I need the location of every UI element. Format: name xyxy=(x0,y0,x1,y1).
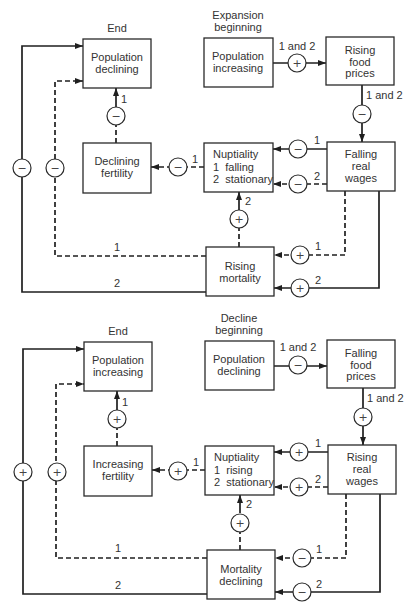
box-text: mortality xyxy=(219,272,261,284)
box-text: fertility xyxy=(101,167,133,179)
box-mortality: Rising mortality xyxy=(206,247,274,296)
sign-node-mortality-to-population-2: + xyxy=(14,463,32,481)
box-text: Population xyxy=(92,354,144,366)
sign-node-mortality-to-population-1: + xyxy=(48,463,66,481)
sign-node-nuptiality-to-fertility: − xyxy=(169,158,187,176)
sign-node-wages-to-mortality-2: − xyxy=(293,583,311,601)
path-label: 1 xyxy=(193,456,199,468)
box-text: real xyxy=(353,463,371,475)
box-real-wages: Rising real wages xyxy=(328,445,396,494)
sign-node-population-to-food: − xyxy=(289,356,307,374)
sign-node-wages-to-mortality-1: + xyxy=(291,246,309,264)
box-fertility: Increasing fertility xyxy=(84,446,152,496)
phase-label-line2: beginning xyxy=(214,21,262,33)
path-label: 2 xyxy=(314,170,320,182)
sign-icon: − xyxy=(173,161,182,174)
sign-icon: + xyxy=(294,446,303,459)
box-text: Rising xyxy=(345,44,376,56)
box-text: Population xyxy=(212,50,264,62)
sign-icon: + xyxy=(295,282,304,295)
sign-node-nuptiality-to-fertility: + xyxy=(169,462,187,480)
box-text: Mortality xyxy=(220,563,262,575)
path-label: 2 xyxy=(114,277,120,289)
box-nuptiality: Nuptiality 1 rising 2 stationary xyxy=(205,446,274,495)
connector-wages-to-mortality-2 xyxy=(274,191,379,288)
sign-node-wages-to-mortality-2: + xyxy=(291,279,309,297)
box-text: declining xyxy=(219,575,262,587)
box-mortality: Mortality declining xyxy=(207,550,275,599)
sign-icon: + xyxy=(112,413,121,426)
sign-node-wages-to-nuptiality-2: − xyxy=(289,175,307,193)
path-label: 1 xyxy=(316,543,322,555)
box-food-prices: Rising food prices xyxy=(326,37,394,85)
phase-label-line1: Decline xyxy=(221,312,258,324)
sign-icon: + xyxy=(358,411,367,424)
sign-icon: − xyxy=(357,108,366,121)
sign-icon: − xyxy=(293,178,302,191)
box-text: 2 stationary xyxy=(214,476,274,488)
path-label: 2 xyxy=(246,498,252,510)
sign-icon: − xyxy=(293,143,302,156)
box-population-end: Population declining xyxy=(83,39,151,88)
sign-node-food-to-wages: − xyxy=(353,105,371,123)
sign-node-population-to-food: + xyxy=(288,54,306,72)
box-text: Falling xyxy=(345,347,377,359)
sign-icon: + xyxy=(292,57,301,70)
box-population-end: Population increasing xyxy=(84,342,152,391)
sign-node-mortality-to-nuptiality: + xyxy=(230,210,248,228)
sign-icon: + xyxy=(235,517,244,530)
sign-icon: − xyxy=(50,162,59,175)
population-feedback-figure: Expansion beginning End Population decli… xyxy=(0,0,413,612)
box-text: Rising xyxy=(347,451,378,463)
box-nuptiality: Nuptiality 1 falling 2 stationary xyxy=(204,143,273,192)
path-label: 1 xyxy=(315,437,321,449)
diagram-decline: Decline beginning End Population increas… xyxy=(14,312,404,601)
sign-icon: + xyxy=(52,466,61,479)
box-text: declining xyxy=(95,63,138,75)
path-label: 1 xyxy=(115,542,121,554)
box-text: real xyxy=(352,160,370,172)
sign-node-mortality-to-population-1: − xyxy=(46,159,64,177)
path-label: 1 and 2 xyxy=(367,392,404,404)
box-real-wages: Falling real wages xyxy=(327,142,395,191)
box-text: fertility xyxy=(102,470,134,482)
sign-icon: + xyxy=(234,213,243,226)
box-text: Rising xyxy=(225,260,256,272)
box-text: Population xyxy=(213,353,265,365)
connector-wages-to-mortality-1 xyxy=(275,494,346,558)
box-text: prices xyxy=(345,67,375,79)
box-text: Declining xyxy=(94,155,139,167)
box-text: Nuptiality xyxy=(213,148,259,160)
path-label: 2 xyxy=(245,195,251,207)
sign-node-fertility-to-population: + xyxy=(108,410,126,428)
sign-icon: − xyxy=(17,162,26,175)
box-text: prices xyxy=(346,370,376,382)
path-label: 2 xyxy=(115,579,121,591)
path-label: 2 xyxy=(315,274,321,286)
sign-node-fertility-to-population: − xyxy=(107,107,125,125)
box-population-start: Population declining xyxy=(205,341,274,390)
sign-icon: − xyxy=(293,359,302,372)
connector-wages-to-mortality-1 xyxy=(274,191,345,255)
sign-node-wages-to-nuptiality-1: − xyxy=(289,140,307,158)
path-label: 1 xyxy=(314,134,320,146)
path-label: 1 xyxy=(114,241,120,253)
connector-wages-to-mortality-2 xyxy=(275,494,380,592)
box-text: Increasing xyxy=(93,458,144,470)
box-text: 1 rising xyxy=(214,464,253,476)
path-label: 1 and 2 xyxy=(366,89,403,101)
diagram-expansion: Expansion beginning End Population decli… xyxy=(13,9,403,297)
box-fertility: Declining fertility xyxy=(83,143,151,193)
sign-icon: − xyxy=(297,552,306,565)
path-label: 2 xyxy=(315,473,321,485)
end-label: End xyxy=(107,22,127,34)
path-label: 1 and 2 xyxy=(279,40,316,52)
box-text: declining xyxy=(217,365,260,377)
box-text: Nuptiality xyxy=(214,451,260,463)
box-text: wages xyxy=(344,172,377,184)
sign-node-wages-to-mortality-1: − xyxy=(293,549,311,567)
sign-node-wages-to-nuptiality-1: + xyxy=(290,443,308,461)
sign-icon: + xyxy=(294,481,303,494)
path-label: 1 xyxy=(315,240,321,252)
sign-icon: − xyxy=(111,110,120,123)
